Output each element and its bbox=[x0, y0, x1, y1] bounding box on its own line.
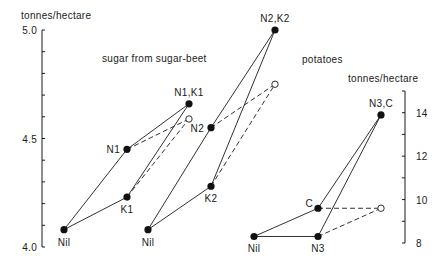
expected-point-open-circle bbox=[378, 205, 384, 211]
point-label: C bbox=[305, 198, 313, 209]
observed-line bbox=[211, 30, 275, 186]
point-label: Nil bbox=[248, 243, 261, 254]
point-label: K2 bbox=[205, 193, 218, 204]
right-axis-tick-label: 14 bbox=[416, 108, 428, 119]
observed-line bbox=[64, 149, 127, 229]
point-label: N1,K1 bbox=[174, 87, 203, 98]
observed-line bbox=[127, 104, 189, 197]
chart-canvas: tonnes/hectare sugar from sugar-beet pot… bbox=[0, 0, 442, 265]
point-label: Nil bbox=[142, 237, 155, 248]
expected-additive-line bbox=[127, 119, 189, 197]
observed-point-dot bbox=[207, 124, 214, 131]
observed-line bbox=[254, 208, 318, 236]
observed-point-dot bbox=[250, 233, 257, 240]
left-axis-tick-label: 5.0 bbox=[22, 25, 37, 36]
interaction-chart: tonnes/hectare sugar from sugar-beet pot… bbox=[0, 0, 442, 265]
observed-line bbox=[318, 115, 381, 237]
observed-point-dot bbox=[377, 111, 384, 118]
observed-line bbox=[148, 128, 211, 230]
sugar-beet-annotation: sugar from sugar-beet bbox=[102, 53, 207, 64]
observed-line bbox=[127, 104, 189, 150]
expected-additive-line bbox=[211, 84, 275, 186]
point-label: N2 bbox=[191, 123, 205, 134]
left-axis-tick-label: 4.5 bbox=[22, 134, 37, 145]
observed-line bbox=[318, 115, 381, 208]
expected-additive-line bbox=[211, 84, 275, 127]
left-axis-tick-label: 4.0 bbox=[22, 242, 37, 253]
observed-point-dot bbox=[314, 233, 321, 240]
potatoes-annotation: potatoes bbox=[302, 54, 343, 65]
point-label: N1 bbox=[107, 144, 121, 155]
expected-additive-line bbox=[318, 208, 381, 236]
observed-point-dot bbox=[185, 100, 192, 107]
expected-additive-line bbox=[127, 119, 189, 149]
observed-point-dot bbox=[123, 146, 130, 153]
point-label: N3,C bbox=[369, 98, 393, 109]
point-label: Nil bbox=[58, 237, 71, 248]
point-label: K1 bbox=[121, 204, 134, 215]
observed-line bbox=[211, 30, 275, 128]
observed-point-dot bbox=[60, 226, 67, 233]
right-axis-label: tonnes/hectare bbox=[348, 73, 418, 84]
observed-point-dot bbox=[314, 205, 321, 212]
expected-point-open-circle bbox=[272, 81, 278, 87]
observed-line bbox=[148, 186, 211, 229]
right-axis-tick-label: 8 bbox=[416, 238, 422, 249]
observed-point-dot bbox=[123, 193, 130, 200]
right-axis-tick-label: 12 bbox=[416, 151, 428, 162]
axes: 5.04.54.01412108 bbox=[22, 25, 428, 253]
left-axis-label: tonnes/hectare bbox=[21, 10, 91, 21]
observed-point-dot bbox=[207, 183, 214, 190]
observed-point-dot bbox=[271, 26, 278, 33]
expected-point-open-circle bbox=[186, 116, 192, 122]
observed-line bbox=[64, 197, 127, 230]
observed-point-dot bbox=[144, 226, 151, 233]
point-label: N3 bbox=[311, 243, 325, 254]
point-label: N2,K2 bbox=[260, 13, 289, 24]
right-axis-tick-label: 10 bbox=[416, 195, 428, 206]
point-labels: NilN1K1N1,K1NilN2K2N2,K2NilCN3N3,C bbox=[58, 13, 393, 254]
